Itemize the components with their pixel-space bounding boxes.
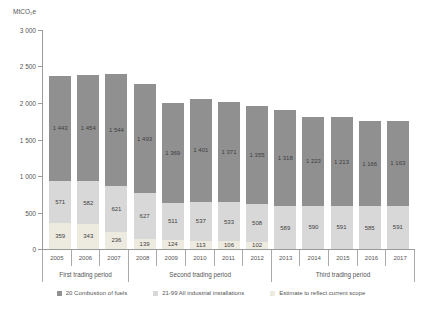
bar-2014: 1 223590 — [302, 30, 324, 249]
bar-value-label: 627 — [134, 213, 156, 219]
bars-container: 1 4435713591 4545823431 5446212361 49362… — [43, 30, 415, 249]
bar-value-label: 1 401 — [190, 147, 212, 153]
bar-value-label: 359 — [49, 233, 71, 239]
legend: 20 Combustion of fuels21-99 All industri… — [0, 290, 422, 296]
bar-value-label: 533 — [218, 219, 240, 225]
plot-area: 05001 0001 5002 0002 5003 000 1 44357135… — [42, 30, 415, 250]
bar-segment-industrial: 627 — [134, 193, 156, 239]
y-tick-mark — [38, 66, 42, 67]
y-tick-mark — [38, 213, 42, 214]
y-tick-mark — [38, 176, 42, 177]
bar-segment-industrial: 508 — [246, 204, 268, 241]
legend-swatch-icon — [153, 291, 158, 296]
bar-value-label: 571 — [49, 199, 71, 205]
legend-item-estimate: Estimate to reflect current scope — [270, 290, 365, 296]
bar-segment-combustion: 1 163 — [387, 121, 409, 206]
bar-segment-industrial: 533 — [218, 202, 240, 241]
y-tick-label: 3 000 — [20, 27, 36, 34]
bar-2013: 1 318589 — [274, 30, 296, 249]
year-label-2007: 2007 — [99, 250, 128, 266]
bar-segment-industrial: 571 — [49, 181, 71, 223]
legend-label: Estimate to reflect current scope — [279, 290, 365, 296]
bar-2016: 1 166585 — [359, 30, 381, 249]
bar-segment-industrial: 621 — [105, 186, 127, 231]
bar-value-label: 591 — [387, 224, 409, 230]
bar-segment-estimate: 359 — [49, 223, 71, 249]
bar-value-label: 537 — [190, 218, 212, 224]
bar-value-label: 343 — [77, 233, 99, 239]
year-label-2010: 2010 — [185, 250, 214, 266]
period-label-1: First trading period — [42, 266, 128, 282]
bar-2006: 1 454582343 — [77, 30, 99, 249]
legend-item-industrial: 21-99 All industrial installations — [153, 290, 244, 296]
bar-segment-combustion: 1 213 — [331, 117, 353, 206]
bar-2009: 1 369511124 — [162, 30, 184, 249]
bar-segment-combustion: 1 371 — [218, 102, 240, 202]
bar-value-label: 102 — [246, 242, 268, 248]
bar-segment-combustion: 1 443 — [49, 76, 71, 181]
y-tick-mark — [38, 140, 42, 141]
bar-value-label: 1 371 — [218, 149, 240, 155]
trading-periods-row: First trading periodSecond trading perio… — [42, 266, 415, 282]
bar-value-label: 113 — [190, 242, 212, 248]
bar-value-label: 124 — [162, 241, 184, 247]
bar-segment-industrial: 511 — [162, 203, 184, 240]
y-tick-label: 2 000 — [20, 99, 36, 106]
year-label-2006: 2006 — [71, 250, 100, 266]
bar-2012: 1 355508102 — [246, 30, 268, 249]
bar-value-label: 591 — [331, 224, 353, 230]
bar-value-label: 1 443 — [49, 125, 71, 131]
bar-value-label: 236 — [105, 237, 127, 243]
emissions-stacked-bar-chart: MtCO₂e 05001 0001 5002 0002 5003 000 1 4… — [0, 0, 422, 312]
period-label-3: Third trading period — [271, 266, 414, 282]
bar-value-label: 1 355 — [246, 152, 268, 158]
bar-segment-estimate: 139 — [134, 239, 156, 249]
bar-segment-estimate: 343 — [77, 224, 99, 249]
bar-2008: 1 493627139 — [134, 30, 156, 249]
legend-item-combustion: 20 Combustion of fuels — [57, 290, 127, 296]
bar-segment-combustion: 1 401 — [190, 99, 212, 201]
bar-value-label: 511 — [162, 218, 184, 224]
bar-segment-combustion: 1 544 — [105, 74, 127, 187]
year-label-2011: 2011 — [214, 250, 243, 266]
y-tick-label: 1 500 — [20, 136, 36, 143]
bar-2015: 1 213591 — [331, 30, 353, 249]
year-label-2013: 2013 — [271, 250, 300, 266]
bar-segment-estimate: 106 — [218, 241, 240, 249]
bar-value-label: 106 — [218, 242, 240, 248]
y-axis-unit-label: MtCO₂e — [13, 8, 36, 15]
bar-2005: 1 443571359 — [49, 30, 71, 249]
bar-segment-industrial: 591 — [331, 206, 353, 249]
bar-2010: 1 401537113 — [190, 30, 212, 249]
bar-segment-estimate: 113 — [190, 241, 212, 249]
bar-segment-industrial: 537 — [190, 202, 212, 241]
bar-segment-industrial: 585 — [359, 206, 381, 249]
y-tick-mark — [38, 103, 42, 104]
year-label-2005: 2005 — [42, 250, 71, 266]
bar-value-label: 621 — [105, 206, 127, 212]
bar-value-label: 590 — [302, 224, 324, 230]
bar-segment-industrial: 589 — [274, 206, 296, 249]
bar-value-label: 585 — [359, 225, 381, 231]
y-tick-label: 500 — [25, 209, 36, 216]
bar-value-label: 1 166 — [359, 161, 381, 167]
bar-value-label: 582 — [77, 200, 99, 206]
bar-segment-combustion: 1 223 — [302, 117, 324, 206]
y-tick-label: 1 000 — [20, 172, 36, 179]
bar-segment-combustion: 1 355 — [246, 106, 268, 205]
x-axis-years-row: 2005200620072008200920102011201220132014… — [42, 250, 415, 266]
bar-value-label: 1 163 — [387, 160, 409, 166]
y-tick-label: 0 — [32, 246, 36, 253]
year-label-2016: 2016 — [357, 250, 386, 266]
bar-segment-combustion: 1 369 — [162, 103, 184, 203]
legend-swatch-icon — [57, 291, 62, 296]
bar-segment-industrial: 591 — [387, 206, 409, 249]
bar-2017: 1 163591 — [387, 30, 409, 249]
legend-label: 20 Combustion of fuels — [66, 290, 127, 296]
bar-segment-combustion: 1 318 — [274, 110, 296, 206]
year-label-2008: 2008 — [128, 250, 157, 266]
year-label-2014: 2014 — [299, 250, 328, 266]
year-label-2017: 2017 — [385, 250, 414, 266]
bar-value-label: 589 — [274, 225, 296, 231]
bar-segment-industrial: 582 — [77, 181, 99, 223]
